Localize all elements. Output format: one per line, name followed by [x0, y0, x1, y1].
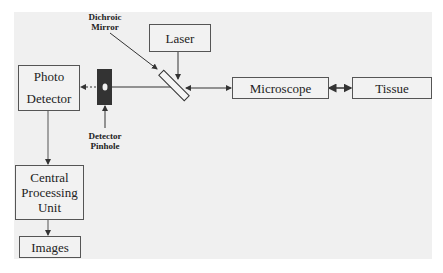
diagram-connectors [0, 0, 443, 273]
tissue-label: Tissue [375, 81, 408, 96]
cpu-label-3: Unit [38, 200, 61, 215]
images-box: Images [19, 236, 81, 258]
laser-label: Laser [166, 31, 195, 46]
cpu-label-2: Processing [21, 185, 77, 200]
dichroic-label-1: Dichroic [80, 12, 130, 22]
laser-box: Laser [149, 24, 211, 52]
dichroic-mirror-shape [159, 70, 189, 100]
cpu-label-1: Central [30, 170, 68, 185]
images-label: Images [31, 240, 69, 255]
pinhole-label-2: Pinhole [82, 141, 128, 151]
photo-detector-label-1: Photo [34, 66, 64, 88]
dichroic-label-2: Mirror [80, 22, 130, 32]
pinhole-label-1: Detector [82, 131, 128, 141]
photo-detector-box: Photo Detector [18, 65, 80, 111]
detector-pinhole-label: Detector Pinhole [82, 131, 128, 151]
dichroic-mirror-label: Dichroic Mirror [80, 12, 130, 32]
cpu-box: Central Processing Unit [15, 165, 84, 220]
tissue-box: Tissue [352, 77, 432, 99]
microscope-box: Microscope [232, 77, 329, 99]
microscope-label: Microscope [250, 81, 311, 96]
photo-detector-label-2: Detector [27, 88, 72, 110]
pinhole-aperture [103, 84, 108, 91]
